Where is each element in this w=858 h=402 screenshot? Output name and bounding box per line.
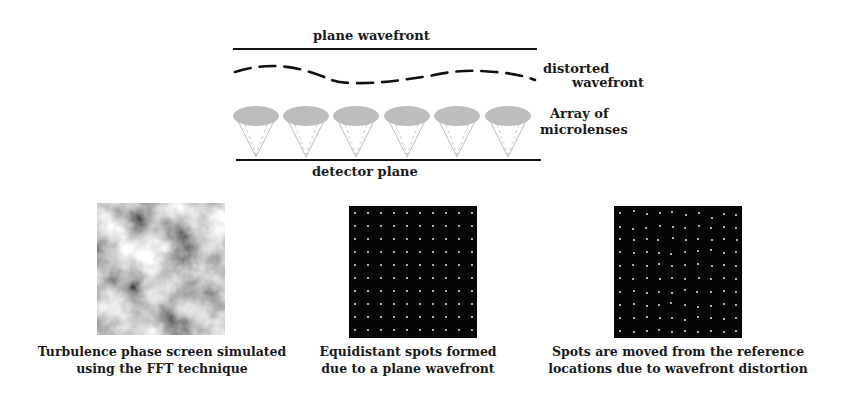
plane-wavefront-line (233, 48, 537, 50)
displaced-caption-line2: locations due to wavefront distortion (522, 360, 834, 377)
distorted-wavefront-label-line2: wavefront (572, 75, 644, 91)
microlens (233, 106, 279, 157)
microlens-label-line2: microlenses (540, 122, 628, 138)
turbulence-caption: Turbulence phase screen simulated using … (37, 343, 287, 377)
distorted-wavefront-curve (230, 58, 540, 88)
microlens-array (233, 105, 538, 160)
equidistant-spots-image (349, 206, 477, 338)
microlens (283, 106, 329, 157)
microlens (485, 106, 531, 157)
microlens (384, 106, 430, 157)
displaced-caption-line1: Spots are moved from the reference (522, 343, 834, 360)
equidistant-caption-line2: due to a plane wavefront (318, 360, 498, 377)
displaced-caption: Spots are moved from the reference locat… (522, 343, 834, 377)
detector-plane-label: detector plane (312, 164, 418, 180)
equidistant-caption-line1: Equidistant spots formed (318, 343, 498, 360)
turbulence-caption-line1: Turbulence phase screen simulated (37, 343, 287, 360)
microlens (333, 106, 379, 157)
microlens (434, 106, 480, 157)
turbulence-caption-line2: using the FFT technique (37, 360, 287, 377)
detector-plane-line (236, 159, 541, 161)
equidistant-caption: Equidistant spots formed due to a plane … (318, 343, 498, 377)
microlens-label-line1: Array of (550, 106, 609, 122)
turbulence-phase-screen-image (97, 203, 225, 335)
plane-wavefront-label: plane wavefront (313, 28, 430, 44)
displaced-spots-image (614, 206, 742, 338)
